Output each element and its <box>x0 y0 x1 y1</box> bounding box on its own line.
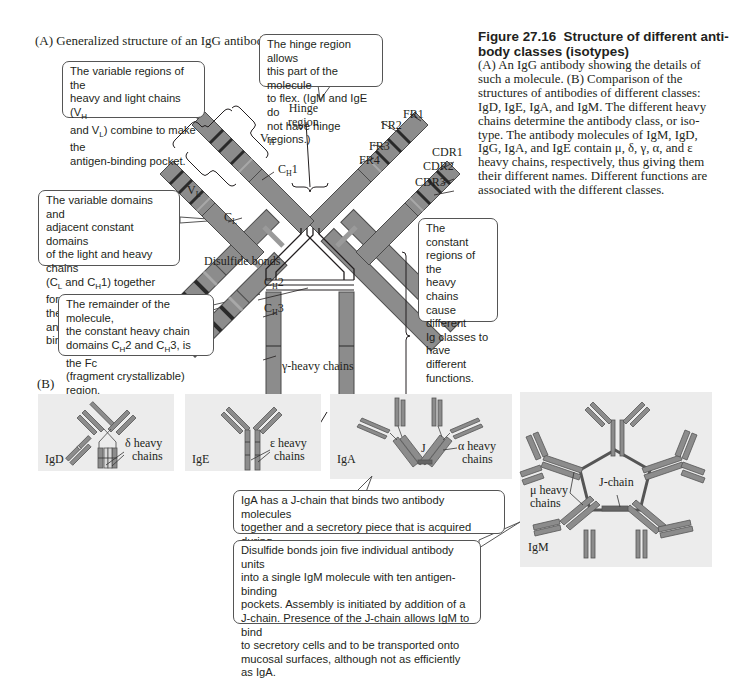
ige-chain-label: ε heavy chains <box>270 437 307 463</box>
igd-label: IgD <box>45 452 64 467</box>
iga-label: IgA <box>337 452 356 467</box>
igm-j-chain-label: J-chain <box>599 475 634 490</box>
label-text: chains <box>530 497 568 510</box>
igm-label: IgM <box>528 540 549 555</box>
callout-igm: Disulfide bonds join five individual ant… <box>233 540 481 624</box>
label-text: chains <box>458 453 496 466</box>
igd-chain-label: δ heavy chains <box>125 437 163 463</box>
callout-text: mucosal surfaces, although not as effici… <box>241 653 473 680</box>
label-text: chains <box>125 450 163 463</box>
callout-text: to secretory cells and to be transported… <box>241 639 473 653</box>
iga-j-label: J <box>421 441 426 456</box>
iga-chain-label: α heavy chains <box>458 440 496 466</box>
callout-text: IgA has a J-chain that binds two antibod… <box>241 494 497 521</box>
callout-text: pockets. Assembly is initiated by additi… <box>241 598 473 612</box>
callout-text: into a single IgM molecule with ten anti… <box>241 571 473 598</box>
ige-label: IgE <box>192 452 209 467</box>
callout-text: J-chain. Presence of the J-chain allows … <box>241 612 473 639</box>
callout-text: Disulfide bonds join five individual ant… <box>241 544 473 571</box>
label-text: chains <box>270 450 307 463</box>
igm-chain-label: μ heavy chains <box>530 484 568 510</box>
callout-iga: IgA has a J-chain that binds two antibod… <box>233 490 505 534</box>
